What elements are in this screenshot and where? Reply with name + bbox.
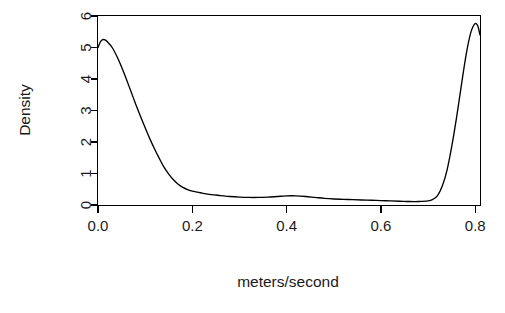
x-axis-title: meters/second [237, 273, 339, 290]
density-curve-line [98, 23, 480, 201]
y-tick-label: 0 [77, 201, 94, 209]
x-tick-label: 0.8 [465, 217, 486, 234]
y-tick-label: 5 [77, 43, 94, 51]
y-tick-label: 6 [77, 12, 94, 20]
y-tick-label: 2 [77, 138, 94, 146]
y-axis-tick-labels: 0123456 [77, 12, 94, 209]
x-tick-label: 0.0 [88, 217, 109, 234]
x-axis-tick-labels: 0.00.20.40.60.8 [88, 217, 486, 234]
x-tick-label: 0.2 [182, 217, 203, 234]
x-tick-label: 0.4 [276, 217, 297, 234]
y-tick-label: 1 [77, 169, 94, 177]
y-tick-label: 4 [77, 75, 94, 83]
y-axis-title: Density [16, 84, 33, 136]
y-tick-label: 3 [77, 106, 94, 114]
plot-panel-border [98, 16, 481, 206]
chart-canvas: 0123456 0.00.20.40.60.8 meters/second De… [0, 0, 505, 313]
x-tick-label: 0.6 [371, 217, 392, 234]
density-plot-figure: 0123456 0.00.20.40.60.8 meters/second De… [0, 0, 505, 313]
